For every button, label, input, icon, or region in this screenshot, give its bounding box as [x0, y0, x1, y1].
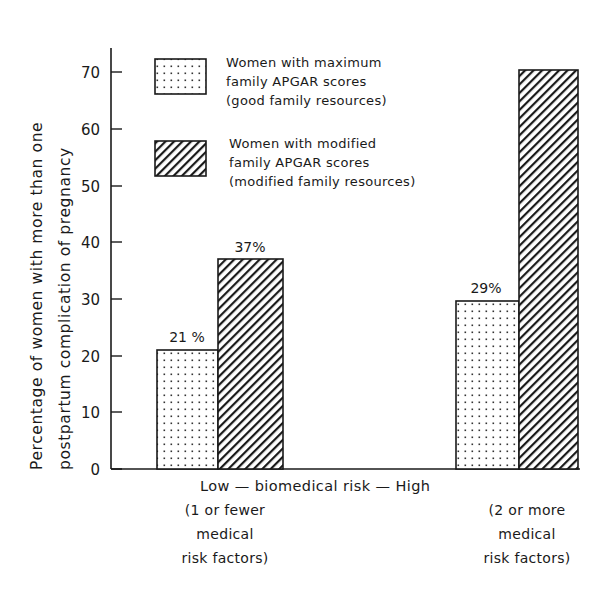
- legend-swatch-dotted: [155, 59, 206, 94]
- legend-hatched-line-1: Women with modified: [229, 134, 376, 153]
- value-label-high-good: 29%: [456, 280, 516, 296]
- bar-low-modified-family: [218, 259, 283, 469]
- bar-low-good-family: [157, 350, 218, 469]
- bar-high-good-family: [456, 301, 519, 469]
- legend-swatch-hatched: [155, 141, 206, 176]
- value-label-low-modified: 37%: [220, 239, 280, 255]
- legend-dotted-line-1: Women with maximum: [226, 53, 382, 72]
- y-tick-label-0: 0: [70, 462, 100, 478]
- y-tick-label-60: 60: [70, 122, 100, 138]
- x-category-high-sublabel: (2 or more medical risk factors): [452, 498, 602, 570]
- y-tick-label-10: 10: [70, 405, 100, 421]
- legend-dotted-line-3: (good family resources): [226, 91, 387, 110]
- y-tick-label-20: 20: [70, 349, 100, 365]
- value-label-low-good: 21 %: [157, 329, 217, 345]
- bar-high-modified-family: [519, 70, 578, 469]
- legend-hatched-line-2: family APGAR scores: [229, 153, 370, 172]
- x-category-low-sublabel: (1 or fewer medical risk factors): [150, 498, 300, 570]
- y-tick-label-40: 40: [70, 235, 100, 251]
- legend-hatched-line-3: (modified family resources): [229, 172, 416, 191]
- y-tick-label-70: 70: [70, 65, 100, 81]
- y-axis: [111, 48, 122, 469]
- x-axis-title: Low — biomedical risk — High: [200, 474, 430, 498]
- y-tick-label-30: 30: [70, 292, 100, 308]
- y-tick-label-50: 50: [70, 179, 100, 195]
- legend-dotted-line-2: family APGAR scores: [226, 72, 367, 91]
